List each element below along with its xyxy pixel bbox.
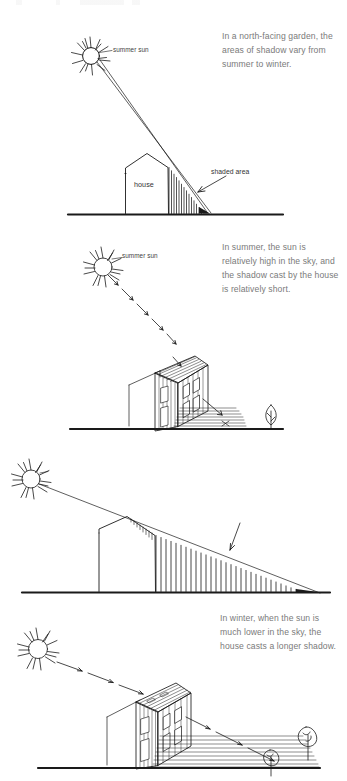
- sun-starburst-icon: [72, 37, 111, 75]
- caption-panel-4: In winter, when the sun is much lower in…: [220, 611, 338, 653]
- sun-ray-arrows: [108, 275, 181, 366]
- sun-ray-line: [97, 62, 211, 213]
- caption-panel-2: In summer, the sun is relatively high in…: [222, 240, 340, 296]
- shaded-area-arrow: [230, 523, 240, 550]
- house-ghost-wall: [107, 700, 140, 765]
- caption-panel-1: In a north-facing garden, the areas of s…: [222, 29, 340, 71]
- tree-icon: [298, 727, 317, 760]
- panel-winter-elevation: winter sun house shaded area: [0, 440, 347, 610]
- illustration-page: summer sun house shaded area In a north-…: [0, 0, 347, 781]
- panel-3-drawing: [0, 440, 347, 610]
- shadow-cross-mark: [222, 421, 229, 426]
- sun-starburst-icon: [84, 247, 124, 287]
- roof-shadow-hatch: [131, 519, 152, 540]
- sun-label-summer-2: summer sun: [122, 252, 158, 259]
- shadow-direction-arrow: [203, 399, 222, 415]
- sun-starburst-icon: [12, 459, 52, 499]
- sun-starburst-icon: [18, 628, 60, 670]
- tree-icon: [264, 750, 279, 776]
- house-icon: [99, 517, 156, 592]
- sun-label-summer: summer sun: [113, 46, 149, 53]
- shadow-direction-arrow: [186, 717, 274, 761]
- tree-icon: [266, 405, 277, 429]
- sun-ray-line-2: [100, 60, 208, 214]
- shaded-area-arrow: [198, 176, 226, 192]
- shaded-area-label: shaded area: [211, 168, 249, 175]
- house-label: house: [134, 180, 154, 189]
- shaded-area-hatch: [156, 536, 301, 592]
- sun-ray-line: [39, 484, 320, 593]
- sun-ray-arrows: [57, 662, 143, 694]
